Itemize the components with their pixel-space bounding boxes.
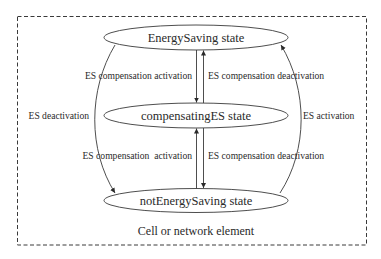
label-es-activation: ES activation bbox=[303, 110, 355, 121]
state-diagram: EnergySaving state compensatingES state … bbox=[0, 0, 381, 259]
label-es-compensation-activation-upper: ES compensation activation bbox=[85, 70, 192, 81]
arrow-es-deactivation bbox=[95, 45, 115, 193]
container-border bbox=[18, 17, 367, 246]
arrow-es-activation bbox=[280, 45, 301, 193]
container-label: Cell or network element bbox=[138, 224, 255, 238]
label-es-compensation-activation-lower: ES compensation activation bbox=[82, 150, 192, 161]
label-es-compensation-deactivation-lower: ES compensation deactivation bbox=[208, 150, 324, 161]
state-not-energy-saving: notEnergySaving state bbox=[104, 189, 288, 213]
state-label: EnergySaving state bbox=[148, 31, 245, 45]
state-compensating-es: compensatingES state bbox=[104, 103, 288, 128]
label-es-deactivation: ES deactivation bbox=[29, 110, 90, 121]
state-energy-saving: EnergySaving state bbox=[104, 25, 288, 50]
state-label: compensatingES state bbox=[141, 109, 251, 123]
state-label: notEnergySaving state bbox=[140, 194, 253, 208]
label-es-compensation-deactivation-upper: ES compensation deactivation bbox=[208, 70, 324, 81]
